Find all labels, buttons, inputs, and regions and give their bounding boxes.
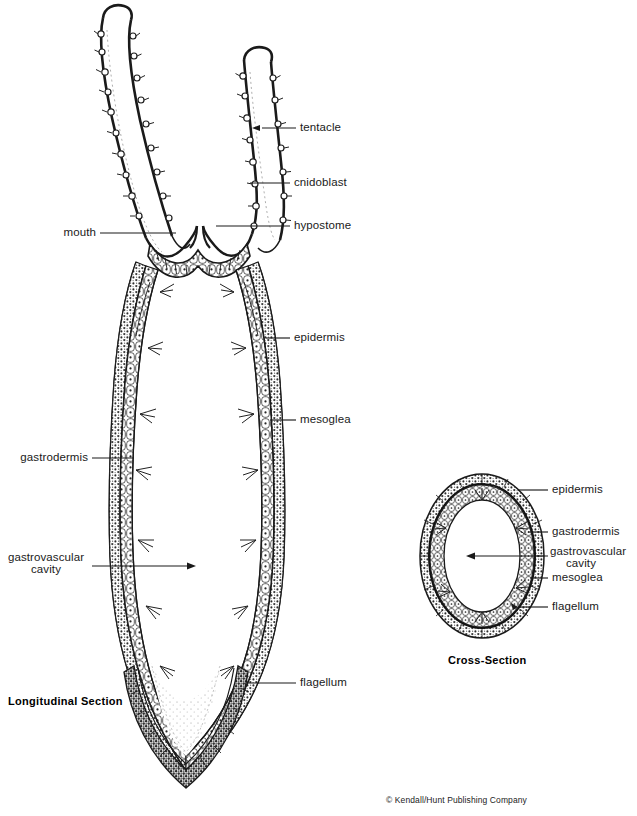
- caption-cross-section: Cross-Section: [448, 654, 526, 666]
- tentacle-right: [236, 47, 293, 240]
- cross-label-gastrodermis: gastrodermis: [552, 525, 620, 537]
- caption-longitudinal-section: Longitudinal Section: [8, 695, 123, 707]
- tentacle-left: [94, 5, 172, 252]
- label-hypostome: hypostome: [294, 219, 351, 231]
- body-column: [109, 262, 285, 788]
- label-gastrovascular-cavity: gastrovascular cavity: [4, 551, 88, 575]
- label-mouth: mouth: [52, 226, 96, 238]
- cross-label-gastrovascular-line1: gastrovascular: [550, 545, 626, 557]
- cross-label-epidermis: epidermis: [552, 483, 603, 495]
- cnidoblast-bumps-left-inner: [130, 33, 172, 221]
- label-tentacle: tentacle: [300, 121, 341, 133]
- label-flagellum: flagellum: [300, 676, 347, 688]
- label-mesoglea: mesoglea: [300, 413, 351, 425]
- gastrovascular-arrow-longitudinal: [92, 563, 196, 570]
- cross-label-gastrovascular-line2: cavity: [550, 557, 596, 569]
- cross-label-mesoglea: mesoglea: [552, 571, 603, 583]
- label-gastrodermis: gastrodermis: [10, 451, 88, 463]
- cross-section-drawing: [420, 474, 548, 638]
- gastrodermis-layer-right: [186, 266, 274, 770]
- longitudinal-section-drawing: [92, 5, 296, 788]
- flagella-tufts: [136, 284, 258, 679]
- hydra-diagram-figure: tentacle cnidoblast hypostome mouth epid…: [0, 0, 637, 816]
- label-epidermis: epidermis: [294, 331, 345, 343]
- tentacle-arrowhead: [252, 125, 260, 131]
- cross-label-flagellum: flagellum: [552, 600, 599, 612]
- label-gastrovascular-line1: gastrovascular: [8, 551, 84, 563]
- copyright-notice: © Kendall/Hunt Publishing Company: [386, 795, 527, 805]
- cross-label-gastrovascular-cavity: gastrovascular cavity: [550, 545, 636, 569]
- label-cnidoblast: cnidoblast: [294, 176, 347, 188]
- label-gastrovascular-line2: cavity: [31, 563, 61, 575]
